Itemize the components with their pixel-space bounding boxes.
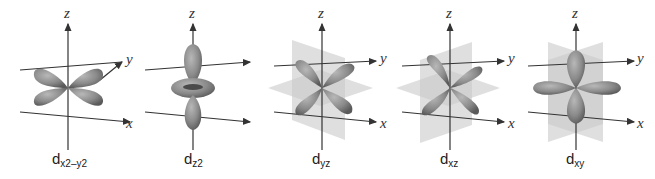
x-axis bbox=[20, 112, 130, 122]
orbital-dyz: z y x dyz bbox=[268, 5, 387, 169]
z-axis-label: z bbox=[571, 5, 578, 21]
z-axis-label: z bbox=[63, 5, 70, 21]
orbital-label-dxz: dxz bbox=[440, 150, 458, 169]
z-axis-label: z bbox=[445, 5, 452, 21]
orbital-label-dx2-y2: dx2–y2 bbox=[52, 150, 87, 169]
z-axis-label: z bbox=[188, 5, 195, 21]
x-axis-label: x bbox=[125, 115, 133, 131]
x-axis-label: x bbox=[636, 115, 644, 131]
orbital-label-dxy: dxy bbox=[566, 150, 584, 169]
orbital-dx2-y2: z y x dx2–y2 bbox=[20, 5, 133, 169]
lobes bbox=[171, 44, 215, 130]
y-axis bbox=[20, 62, 122, 70]
orbital-dxz: z y x dxz bbox=[396, 5, 515, 169]
orbital-dz2: z dz2 bbox=[145, 5, 250, 169]
nodal-plane bbox=[396, 70, 500, 106]
nodal-plane bbox=[268, 70, 373, 106]
y-axis-label: y bbox=[124, 51, 133, 67]
x-axis-label: x bbox=[507, 115, 515, 131]
d-orbitals-svg: z y x dx2–y2 z dz2 z y x dyz bbox=[0, 0, 655, 179]
y-axis-label: y bbox=[506, 50, 515, 66]
y-axis-label: y bbox=[635, 50, 644, 66]
orbital-dxy: z y x dxy bbox=[528, 5, 644, 169]
d-orbitals-figure: z y x dx2–y2 z dz2 z y x dyz bbox=[0, 0, 655, 179]
x-axis-label: x bbox=[379, 115, 387, 131]
orbital-label-dz2: dz2 bbox=[184, 150, 203, 169]
orbital-label-dyz: dyz bbox=[312, 150, 330, 169]
z-axis-label: z bbox=[317, 5, 324, 21]
y-axis-label: y bbox=[378, 50, 387, 66]
